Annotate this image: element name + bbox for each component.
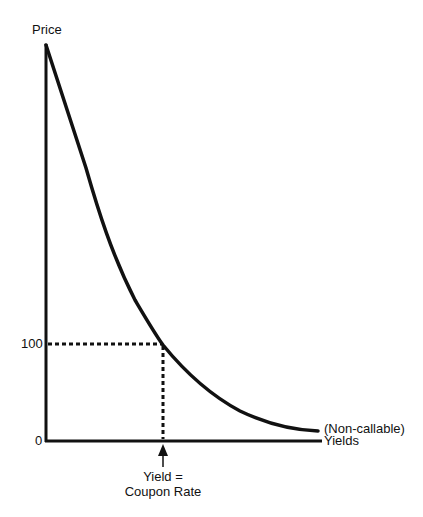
y-tick-0: 0 — [35, 434, 42, 448]
y-axis-label: Price — [32, 23, 62, 37]
y-tick-100: 100 — [21, 337, 43, 351]
annotation-yield-equals: Yield = — [133, 470, 193, 484]
arrow-up-icon — [158, 444, 168, 456]
annotation-coupon-rate: Coupon Rate — [118, 485, 208, 499]
non-callable-curve — [46, 45, 318, 431]
price-yield-chart — [0, 0, 423, 517]
x-axis-label: Yields — [324, 434, 359, 448]
